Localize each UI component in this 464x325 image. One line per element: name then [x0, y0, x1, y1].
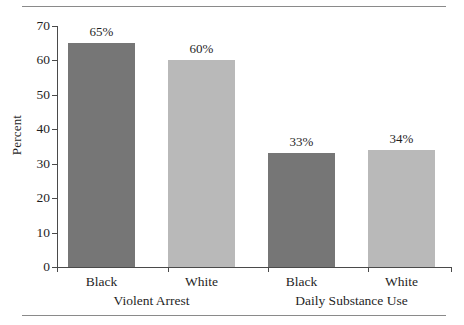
- bar-value-label: 65%: [68, 24, 135, 40]
- x-axis-tick: [451, 267, 452, 272]
- figure-top-rule: [22, 6, 446, 7]
- y-axis-tick: [52, 233, 58, 234]
- y-axis-tick-label: 40: [0, 122, 50, 136]
- y-axis-tick: [52, 129, 58, 130]
- x-axis-category-label: Black: [268, 274, 335, 290]
- y-axis-tick-label: 30: [0, 157, 50, 171]
- figure-bottom-rule: [22, 315, 446, 316]
- bar: [168, 60, 235, 267]
- x-axis-group-label: Violent Arrest: [68, 293, 235, 309]
- x-axis-line: [57, 267, 451, 268]
- x-axis-category-label: White: [168, 274, 235, 290]
- x-axis-tick: [368, 267, 369, 272]
- x-axis-tick: [57, 267, 58, 272]
- x-axis-group-label: Daily Substance Use: [268, 293, 435, 309]
- y-axis-tick-label: 50: [0, 88, 50, 102]
- x-axis-tick: [168, 267, 169, 272]
- x-axis-tick: [268, 267, 269, 272]
- bar: [368, 150, 435, 267]
- y-axis-tick: [52, 198, 58, 199]
- y-axis-tick-label: 20: [0, 191, 50, 205]
- bar: [268, 153, 335, 267]
- y-axis-tick: [52, 95, 58, 96]
- chart-figure: Percent 706050403020100 65%60%33%34% Bla…: [0, 0, 464, 325]
- bar-value-label: 33%: [268, 134, 335, 150]
- y-axis-tick-label: 0: [0, 260, 50, 274]
- bar-value-label: 60%: [168, 41, 235, 57]
- y-axis-tick: [52, 164, 58, 165]
- y-axis-tick-label: 70: [0, 19, 50, 33]
- bar-value-label: 34%: [368, 131, 435, 147]
- bar: [68, 43, 135, 267]
- x-axis-category-label: Black: [68, 274, 135, 290]
- y-axis-tick: [52, 26, 58, 27]
- y-axis-tick-label: 10: [0, 226, 50, 240]
- y-axis-tick-label: 60: [0, 53, 50, 67]
- y-axis-tick: [52, 60, 58, 61]
- x-axis-category-label: White: [368, 274, 435, 290]
